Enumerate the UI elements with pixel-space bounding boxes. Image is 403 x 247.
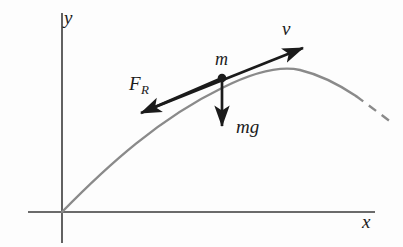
- mass-point-label: m: [215, 50, 228, 68]
- velocity-vector-label: v: [282, 19, 290, 38]
- weight-vector-label: mg: [236, 117, 259, 136]
- resistance-vector-label-subscript: R: [141, 82, 149, 97]
- y-axis-label: y: [64, 8, 72, 27]
- x-axis-label: x: [362, 212, 370, 231]
- trajectory-curve-dashed: [356, 96, 391, 122]
- resistance-vector-label: FR: [129, 74, 149, 96]
- diagram-canvas: [0, 0, 403, 247]
- resistance-vector-label-base: F: [129, 73, 141, 94]
- physics-diagram-figure: y x v m mg FR: [0, 0, 403, 247]
- trajectory-curve: [62, 69, 356, 212]
- mass-point-dot: [218, 74, 227, 83]
